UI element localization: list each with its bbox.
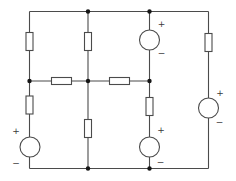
junction-node	[147, 9, 151, 13]
resistor-middle-right	[110, 78, 130, 85]
junction-node	[27, 79, 31, 83]
source-bottom-center-minus-label: −	[157, 157, 165, 167]
junction-node	[86, 166, 90, 170]
resistor-right-top	[205, 34, 212, 52]
circuit-canvas: +−+−+−+−	[0, 0, 236, 181]
source-bottom-center-plus-label: +	[157, 125, 165, 135]
circuit-diagram: +−+−+−+−	[0, 0, 236, 181]
source-bottom-center-circle	[140, 137, 160, 157]
source-bottom-left-plus-label: +	[12, 126, 20, 136]
source-top-center-plus-label: +	[158, 19, 166, 29]
junction-node	[86, 79, 90, 83]
resistor-left-top	[26, 33, 33, 51]
junction-node	[86, 9, 90, 13]
junction-node	[147, 79, 151, 83]
junction-node	[147, 166, 151, 170]
source-bottom-left-circle	[20, 137, 40, 157]
source-right-edge-minus-label: −	[216, 117, 224, 127]
source-bottom-left-minus-label: −	[12, 158, 20, 168]
resistor-innerleft-top	[85, 33, 92, 51]
resistor-middle-left	[52, 78, 72, 85]
source-right-edge-circle	[199, 98, 219, 118]
resistor-innerleft-lower	[85, 120, 92, 138]
resistor-innerright-lower	[146, 98, 153, 116]
source-top-center-minus-label: −	[158, 48, 166, 58]
source-top-center-circle	[140, 30, 160, 50]
source-right-edge-plus-label: +	[216, 88, 224, 98]
resistor-left-lower	[26, 96, 33, 114]
